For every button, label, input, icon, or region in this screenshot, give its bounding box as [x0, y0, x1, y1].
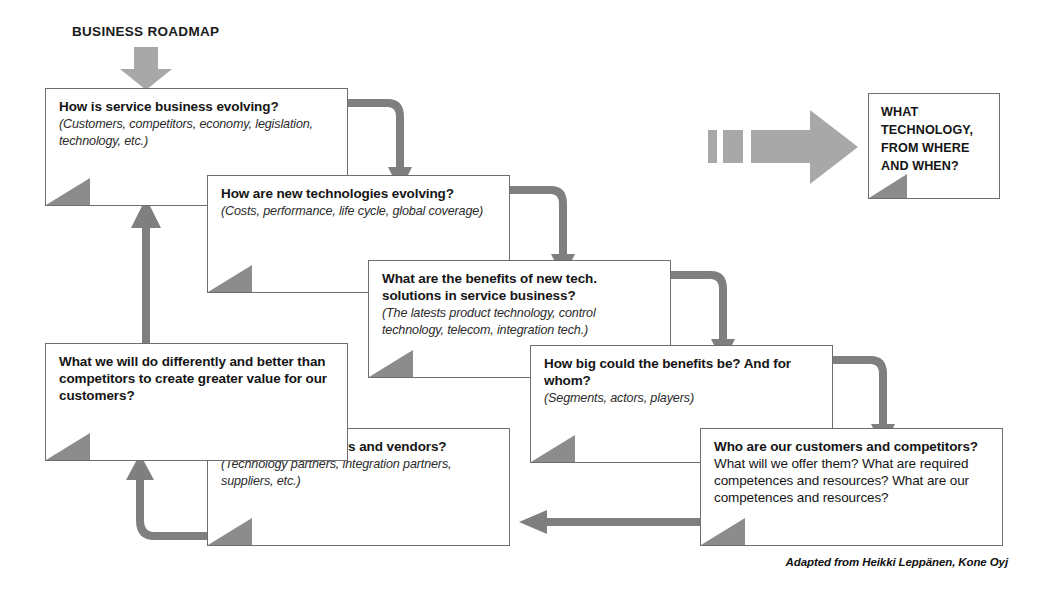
box-heading: How are new technologies evolving?: [221, 185, 497, 202]
corner-shadow: [208, 265, 252, 292]
box-subtext: (Customers, competitors, economy, legisl…: [59, 116, 335, 149]
corner-shadow: [369, 350, 413, 377]
box-heading: How is service business evolving?: [59, 98, 335, 115]
outcome-line-1: WHAT: [881, 104, 989, 122]
connector-differentiation-to-service: [128, 190, 164, 355]
down-arrow-icon: [118, 47, 174, 91]
box-heading: Who are our customers and competitors? W…: [714, 438, 990, 507]
corner-shadow: [208, 518, 252, 545]
segmented-right-arrow-icon: [708, 108, 863, 186]
box-subtext: (Costs, performance, life cycle, global …: [221, 203, 497, 219]
box-heading: What are the benefits of new tech. solut…: [382, 270, 658, 304]
business-roadmap-diagram: BUSINESS ROADMAP: [0, 0, 1043, 593]
corner-shadow: [531, 435, 575, 462]
box-subtext: (Segments, actors, players): [544, 390, 820, 406]
box-what-technology[interactable]: WHAT TECHNOLOGY, FROM WHERE AND WHEN?: [868, 93, 1000, 199]
corner-shadow: [46, 178, 90, 205]
box-heading: How big could the benefits be? And for w…: [544, 355, 820, 389]
corner-shadow: [46, 433, 90, 460]
attribution-text: Adapted from Heikki Leppänen, Kone Oyj: [786, 556, 1008, 568]
box-heading-bold: Who are our customers and competitors?: [714, 439, 978, 454]
box-heading: What we will do differently and better t…: [59, 353, 335, 404]
box-customers-competitors[interactable]: Who are our customers and competitors? W…: [700, 428, 1003, 546]
box-subtext: (The latests product technology, control…: [382, 305, 658, 338]
box-subtext: (Technology partners, integration partne…: [221, 456, 497, 489]
page-title: BUSINESS ROADMAP: [72, 24, 219, 39]
outcome-line-2: TECHNOLOGY,: [881, 122, 989, 140]
outcome-line-3: FROM WHERE: [881, 140, 989, 158]
box-heading-plain: What will we offer them? What are requir…: [714, 456, 969, 505]
outcome-line-4: AND WHEN?: [881, 158, 989, 176]
connector-customers-to-partners: [505, 505, 715, 539]
corner-shadow: [701, 518, 745, 545]
box-differentiation[interactable]: What we will do differently and better t…: [45, 343, 348, 461]
